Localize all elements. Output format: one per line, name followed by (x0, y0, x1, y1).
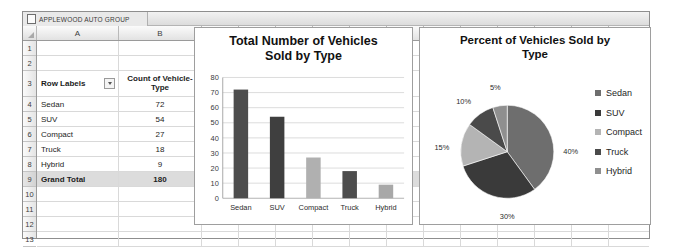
worksheet-icon (27, 14, 36, 24)
cell-B12[interactable] (119, 217, 202, 231)
y-axis-tick-70: 70 (211, 88, 219, 97)
legend-label-hybrid: Hybrid (606, 166, 632, 176)
pivot-label-suv[interactable]: SUV (37, 112, 119, 126)
pivot-label-truck[interactable]: Truck (37, 142, 119, 156)
column-header-b[interactable]: B (119, 26, 202, 40)
x-axis-label-hybrid: Hybrid (375, 203, 396, 212)
row-header-2[interactable]: 2 (23, 56, 36, 71)
sheet-tab-label: APPLEWOOD AUTO GROUP (39, 16, 130, 23)
legend-label-suv: SUV (606, 108, 625, 118)
cell-K13[interactable] (498, 232, 535, 246)
pie-data-label-suv: 30% (500, 212, 515, 221)
row-header-11[interactable]: 11 (23, 202, 36, 217)
row-header-10[interactable]: 10 (23, 187, 36, 202)
column-header-a[interactable]: A (37, 26, 119, 40)
pie-data-label-compact: 15% (434, 143, 449, 152)
bar-compact[interactable] (306, 158, 321, 199)
screenshot-root: APPLEWOOD AUTO GROUP ABCDEFGHIJKLM 12345… (0, 0, 673, 251)
cell-B10[interactable] (119, 187, 202, 201)
pivot-value-compact[interactable]: 27 (119, 127, 202, 141)
y-axis-tick-50: 50 (211, 118, 219, 127)
sheet-tab-applewood-auto-group[interactable]: APPLEWOOD AUTO GROUP (23, 12, 148, 26)
x-axis-label-sedan: Sedan (230, 203, 251, 212)
row-header-9[interactable]: 9 (23, 172, 36, 187)
bar-sedan[interactable] (234, 90, 249, 199)
sheet-tab-strip: APPLEWOOD AUTO GROUP (23, 12, 649, 26)
legend-item-hybrid[interactable]: Hybrid (595, 166, 642, 176)
pivot-value-hybrid[interactable]: 9 (119, 157, 202, 171)
percent-vehicles-pie-chart[interactable]: Percent of Vehicles Sold by Type 40%30%1… (419, 27, 651, 225)
row-header-6[interactable]: 6 (23, 127, 36, 142)
workbook-window: APPLEWOOD AUTO GROUP ABCDEFGHIJKLM 12345… (22, 11, 650, 239)
row-header-3[interactable]: 3 (23, 71, 36, 97)
cell-A10[interactable] (37, 187, 119, 201)
cell-A2[interactable] (37, 56, 119, 70)
row-header-5[interactable]: 5 (23, 112, 36, 127)
legend-item-sedan[interactable]: Sedan (595, 88, 642, 98)
legend-label-compact: Compact (606, 127, 642, 137)
y-axis-tick-10: 10 (211, 179, 219, 188)
pivot-value-truck[interactable]: 18 (119, 142, 202, 156)
row-header-8[interactable]: 8 (23, 157, 36, 172)
x-axis-label-compact: Compact (299, 203, 329, 212)
y-axis-tick-40: 40 (211, 134, 219, 143)
cell-B11[interactable] (119, 202, 202, 216)
cell-D13[interactable] (239, 232, 276, 246)
bar-truck[interactable] (342, 171, 357, 198)
cell-J13[interactable] (461, 232, 498, 246)
pivot-label-hybrid[interactable]: Hybrid (37, 157, 119, 171)
legend-label-sedan: Sedan (606, 88, 632, 98)
pivot-label-sedan[interactable]: Sedan (37, 97, 119, 111)
y-axis-tick-30: 30 (211, 149, 219, 158)
legend-item-truck[interactable]: Truck (595, 147, 642, 157)
row-header-12[interactable]: 12 (23, 217, 36, 232)
legend-item-compact[interactable]: Compact (595, 127, 642, 137)
legend-swatch-sedan (595, 90, 601, 96)
cell-M13[interactable] (572, 232, 609, 246)
cell-C13[interactable] (202, 232, 239, 246)
cell-B1[interactable] (119, 41, 202, 55)
cell-I13[interactable] (424, 232, 461, 246)
count-header-line2: Type (151, 84, 169, 92)
row-labels-text: Row Labels (41, 79, 85, 88)
row-header-13[interactable]: 13 (23, 232, 36, 247)
pivot-value-suv[interactable]: 54 (119, 112, 202, 126)
y-axis-tick-0: 0 (215, 194, 219, 203)
cell-L13[interactable] (535, 232, 572, 246)
pivot-label-compact[interactable]: Compact (37, 127, 119, 141)
bar-suv[interactable] (270, 117, 285, 199)
select-all-triangle-icon (28, 32, 34, 38)
y-axis-tick-20: 20 (211, 164, 219, 173)
cell-B2[interactable] (119, 56, 202, 70)
bar-hybrid[interactable] (379, 185, 394, 199)
select-all-corner[interactable] (23, 26, 37, 40)
cell-A1[interactable] (37, 41, 119, 55)
pie-data-label-truck: 10% (456, 97, 471, 106)
table-row (37, 232, 649, 247)
row-header-7[interactable]: 7 (23, 142, 36, 157)
row-header-1[interactable]: 1 (23, 41, 36, 56)
cell-A11[interactable] (37, 202, 119, 216)
legend-item-suv[interactable]: SUV (595, 108, 642, 118)
cell-G13[interactable] (350, 232, 387, 246)
cell-E13[interactable] (276, 232, 313, 246)
pivot-header-count-of-vehicle-type[interactable]: Count of Vehicle-Type (119, 71, 202, 96)
legend-swatch-truck (595, 149, 601, 155)
cell-B13[interactable] (119, 232, 202, 246)
grand-total-value[interactable]: 180 (119, 172, 202, 186)
cell-A12[interactable] (37, 217, 119, 231)
pivot-value-sedan[interactable]: 72 (119, 97, 202, 111)
legend-label-truck: Truck (606, 147, 628, 157)
grand-total-label[interactable]: Grand Total (37, 172, 119, 186)
row-header-4[interactable]: 4 (23, 97, 36, 112)
pivot-header-row-labels[interactable]: Row Labels (37, 71, 119, 96)
cell-H13[interactable] (387, 232, 424, 246)
chevron-down-icon (108, 82, 112, 85)
legend-swatch-compact (595, 129, 601, 135)
cell-F13[interactable] (313, 232, 350, 246)
y-axis-tick-60: 60 (211, 103, 219, 112)
cell-A13[interactable] (37, 232, 119, 246)
total-vehicles-bar-chart[interactable]: Total Number of Vehicles Sold by Type 01… (194, 27, 413, 225)
row-header-column: 12345678910111213 (23, 41, 37, 238)
filter-dropdown-icon[interactable] (104, 78, 115, 89)
